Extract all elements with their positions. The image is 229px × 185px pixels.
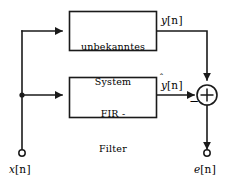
signal-label-yhat: ̂y[n] (161, 79, 183, 91)
block-fir-filter-label: FIR - Filter (69, 85, 157, 177)
adder-negative-sign: − (189, 95, 199, 107)
block-fir-filter-line1: FIR - (69, 108, 157, 120)
signal-yhat-index: [n] (167, 79, 183, 91)
summing-junction[interactable] (197, 85, 217, 105)
input-terminal[interactable] (19, 150, 25, 156)
block-fir-filter-line2: Filter (69, 143, 157, 155)
signal-yhat-symbol-wrap: ̂y (161, 79, 167, 91)
signal-x-index: [n] (15, 163, 31, 175)
signal-label-y: y[n] (161, 14, 183, 26)
block-diagram: unbekanntes System FIR - Filter y[n] ̂y[… (0, 0, 229, 185)
wire-unknown-system-to-adder (157, 31, 207, 80)
signal-e-index: [n] (200, 163, 216, 175)
signal-yhat-symbol: y (161, 79, 167, 91)
signal-label-e: e[n] (194, 163, 216, 175)
block-unknown-system-line1: unbekanntes (69, 41, 157, 53)
branch-node-dot (19, 92, 24, 97)
signal-label-x: x[n] (9, 163, 31, 175)
signal-y-index: [n] (167, 14, 183, 26)
output-terminal[interactable] (204, 150, 210, 156)
